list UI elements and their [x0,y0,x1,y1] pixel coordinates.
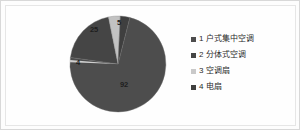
pie-label-3: 5 [117,19,121,27]
legend-label-1: 1 户式集中空调 [199,35,254,43]
legend-item-2[interactable]: 2 分体式空调 [191,47,296,63]
legend-item-3[interactable]: 3 空调扇 [191,63,296,79]
chart-frame: 92 25 5 4 1 户式集中空调 2 分体式空调 3 空调扇 4 电扇 [0,0,300,130]
legend-label-4: 4 电扇 [199,83,222,91]
legend-marker-square-icon [191,37,196,42]
legend-marker-square-icon [191,85,196,90]
legend-marker-square-icon [191,69,196,74]
pie-label-4: 4 [76,59,80,67]
legend-marker-square-icon [191,53,196,58]
legend-label-3: 3 空调扇 [199,67,230,75]
pie-label-1: 92 [120,81,128,89]
pie-chart-plot-area: 92 25 5 4 [7,1,197,130]
legend-item-1[interactable]: 1 户式集中空调 [191,31,296,47]
legend-item-4[interactable]: 4 电扇 [191,79,296,95]
legend-label-2: 2 分体式空调 [199,51,246,59]
pie-label-2: 25 [90,26,98,34]
pie-chart-graphic [7,1,197,130]
chart-legend: 1 户式集中空调 2 分体式空调 3 空调扇 4 电扇 [191,31,296,95]
